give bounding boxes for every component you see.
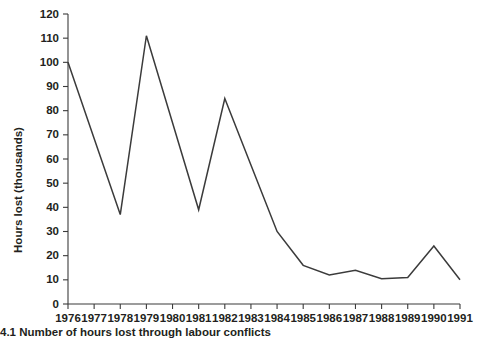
- x-tick-label-1989: 1989: [395, 312, 421, 324]
- x-tick-label-1978: 1978: [107, 312, 133, 324]
- y-tick-label-20: 20: [46, 249, 59, 261]
- y-tick-label-70: 70: [46, 128, 59, 140]
- y-tick-label-120: 120: [40, 8, 59, 20]
- y-tick-label-40: 40: [46, 201, 59, 213]
- data-series-line: [68, 36, 460, 280]
- x-tick-label-1988: 1988: [369, 312, 395, 324]
- x-tick-label-1987: 1987: [343, 312, 369, 324]
- y-tick-label-110: 110: [40, 32, 59, 44]
- x-tick-label-1984: 1984: [264, 312, 290, 324]
- x-tick-label-1991: 1991: [447, 312, 473, 324]
- y-tick-label-100: 100: [40, 56, 59, 68]
- x-tick-label-1981: 1981: [186, 312, 212, 324]
- x-tick-label-1982: 1982: [212, 312, 238, 324]
- y-tick-label-10: 10: [46, 273, 59, 285]
- x-tick-label-1990: 1990: [421, 312, 447, 324]
- x-tick-label-1980: 1980: [160, 312, 186, 324]
- x-tick-label-1985: 1985: [290, 312, 316, 324]
- x-tick-label-1977: 1977: [81, 312, 107, 324]
- y-tick-label-50: 50: [46, 177, 59, 189]
- y-tick-label-0: 0: [53, 298, 59, 310]
- figure-container: 0102030405060708090100110120197619771978…: [0, 0, 489, 339]
- y-tick-label-30: 30: [46, 225, 59, 237]
- y-tick-label-80: 80: [46, 104, 59, 116]
- y-axis-title: Hours lost (thousands): [12, 127, 24, 253]
- x-tick-label-1976: 1976: [55, 312, 81, 324]
- y-tick-label-90: 90: [46, 80, 59, 92]
- line-chart: 0102030405060708090100110120197619771978…: [0, 0, 489, 339]
- x-tick-label-1979: 1979: [134, 312, 160, 324]
- y-tick-label-60: 60: [46, 153, 59, 165]
- x-tick-label-1983: 1983: [238, 312, 264, 324]
- x-tick-label-1986: 1986: [317, 312, 343, 324]
- figure-caption: 4.1 Number of hours lost through labour …: [0, 325, 489, 339]
